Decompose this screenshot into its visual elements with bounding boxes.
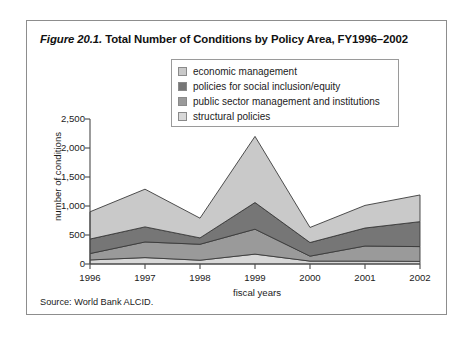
y-axis-ticks: [85, 119, 90, 264]
stacked-area-chart: [27, 21, 448, 316]
x-axis-ticks: [90, 264, 420, 269]
chart-plot-area: number of conditions fiscal years 2,500 …: [27, 21, 448, 316]
figure-page: Figure 20.1. Total Number of Conditions …: [0, 0, 473, 340]
figure-frame: Figure 20.1. Total Number of Conditions …: [26, 20, 447, 315]
area-series-group: [90, 136, 420, 264]
source-note: Source: World Bank ALCID.: [40, 297, 153, 307]
